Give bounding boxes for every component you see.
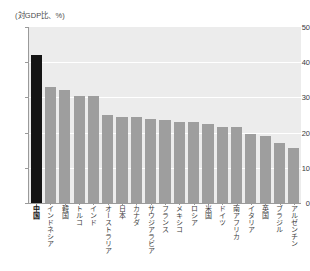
- bar-slot: [86, 27, 100, 203]
- x-tick-label: 日本: [119, 205, 126, 219]
- bar-slot: [172, 27, 186, 203]
- bar[interactable]: [116, 117, 127, 203]
- bar[interactable]: [217, 127, 228, 203]
- bar-slot: [72, 27, 86, 203]
- bar-chart: (対GDP比、%) 01020304050 中国インドネシア韓国トルコインドオー…: [0, 0, 310, 271]
- x-tick-label: 中国: [33, 205, 40, 219]
- bar[interactable]: [74, 96, 85, 203]
- bar[interactable]: [131, 117, 142, 203]
- bar-slot: [144, 27, 158, 203]
- x-tick-label: オーストラリア: [104, 205, 111, 254]
- bar-slot: [201, 27, 215, 203]
- x-tick-label: 韓国: [61, 205, 68, 219]
- y-tick-mark: [25, 97, 28, 98]
- bar-slot: [272, 27, 286, 203]
- bar[interactable]: [231, 127, 242, 203]
- bar-slot: [101, 27, 115, 203]
- bar-slot: [115, 27, 129, 203]
- bar[interactable]: [59, 90, 70, 203]
- bar[interactable]: [102, 115, 113, 203]
- bar[interactable]: [145, 119, 156, 203]
- bar-slot: [58, 27, 72, 203]
- bar[interactable]: [245, 134, 256, 203]
- x-tick-label: ロシア: [190, 205, 197, 226]
- bar-slot: [158, 27, 172, 203]
- x-axis-labels: 中国インドネシア韓国トルコインドオーストラリア日本カナダサウジアラビアフランスメ…: [29, 205, 301, 269]
- bar-slot: [186, 27, 200, 203]
- bar-slot: [29, 27, 43, 203]
- bar-slot: [229, 27, 243, 203]
- x-tick-label: カナダ: [133, 205, 140, 226]
- bar-highlight[interactable]: [31, 55, 42, 203]
- bar-slot: [129, 27, 143, 203]
- x-tick-label: フランス: [162, 205, 169, 233]
- bar-slot: [258, 27, 272, 203]
- y-tick-mark: [25, 203, 28, 204]
- x-tick-label: 米国: [204, 205, 211, 219]
- x-tick-label: ブラジル: [276, 205, 283, 233]
- x-tick-label: トルコ: [76, 205, 83, 226]
- x-tick-label: イタリア: [247, 205, 254, 233]
- bars-layer: [29, 27, 301, 203]
- y-tick-mark: [25, 133, 28, 134]
- x-tick-label: アルゼンチン: [290, 205, 297, 247]
- bar-slot: [287, 27, 301, 203]
- x-tick-label: 南アフリカ: [233, 205, 240, 240]
- x-tick-label: インド: [90, 205, 97, 226]
- bar[interactable]: [88, 96, 99, 203]
- bar[interactable]: [202, 124, 213, 203]
- bar[interactable]: [159, 120, 170, 203]
- bar[interactable]: [260, 136, 271, 203]
- x-tick-label: メキシコ: [176, 205, 183, 233]
- bar[interactable]: [45, 87, 56, 203]
- bar[interactable]: [174, 122, 185, 203]
- bar[interactable]: [288, 148, 299, 203]
- y-tick-mark: [25, 168, 28, 169]
- bar[interactable]: [274, 143, 285, 203]
- y-tick-mark: [25, 27, 28, 28]
- bar[interactable]: [188, 122, 199, 203]
- bar-slot: [215, 27, 229, 203]
- x-tick-label: 英国: [262, 205, 269, 219]
- bar-slot: [43, 27, 57, 203]
- x-tick-label: サウジアラビア: [147, 205, 154, 254]
- x-tick-label: ドイツ: [219, 205, 226, 226]
- x-tick-label: インドネシア: [47, 205, 54, 247]
- bar-slot: [244, 27, 258, 203]
- chart-unit-note: (対GDP比、%): [15, 9, 65, 20]
- y-tick-mark: [25, 62, 28, 63]
